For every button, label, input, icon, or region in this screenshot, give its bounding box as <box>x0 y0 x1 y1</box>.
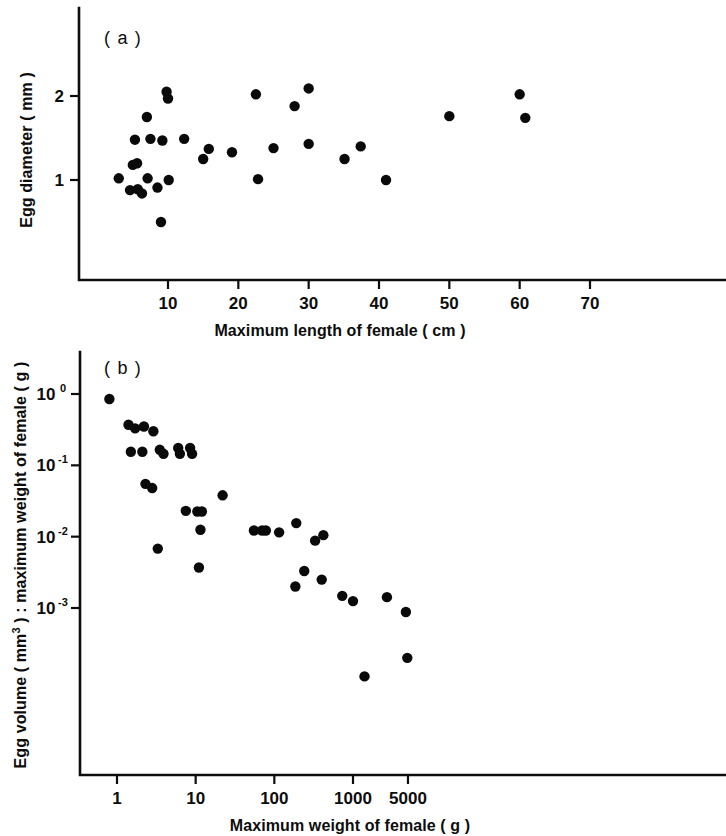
panel-a-x-axis-title: Maximum length of female ( cm ) <box>214 322 465 339</box>
data-point <box>289 101 299 111</box>
data-point <box>130 423 140 433</box>
data-point <box>114 173 124 183</box>
x-tick-label: 10 <box>159 294 178 313</box>
data-point <box>153 543 163 553</box>
panel-b: ( b )10010-110-210-311010010005000Maximu… <box>10 352 726 834</box>
x-tick-label: 1000 <box>334 789 372 808</box>
y-tick-label-exponent: 0 <box>60 382 66 394</box>
data-point <box>291 518 301 528</box>
data-point <box>318 530 328 540</box>
panel-b-x-axis-title: Maximum weight of female ( g ) <box>230 817 470 834</box>
y-tick-label-exponent: -1 <box>58 453 68 465</box>
y-tick-label-exponent: -2 <box>58 525 68 537</box>
panel-b-points <box>104 394 412 682</box>
x-tick-label: 1 <box>112 789 121 808</box>
data-point <box>181 506 191 516</box>
x-tick-label: 40 <box>370 294 389 313</box>
data-point <box>356 141 366 151</box>
data-point <box>299 566 309 576</box>
figure-canvas: ( a )1210203040506070Maximum length of f… <box>0 0 726 836</box>
data-point <box>227 147 237 157</box>
x-tick-label: 30 <box>299 294 318 313</box>
data-point <box>303 139 313 149</box>
data-point <box>194 562 204 572</box>
data-point <box>253 174 263 184</box>
data-point <box>139 421 149 431</box>
y-tick-label: 10 <box>37 599 56 618</box>
y-tick-label: 1 <box>55 171 64 190</box>
data-point <box>217 490 227 500</box>
data-point <box>303 83 313 93</box>
data-point <box>290 581 300 591</box>
panel-a-axes <box>79 8 726 280</box>
data-point <box>156 217 166 227</box>
y-tick-label-exponent: -3 <box>58 596 68 608</box>
data-point <box>126 447 136 457</box>
panel-b-y-axis-title: Egg volume ( mm3 ) : maximum weight of f… <box>10 362 29 769</box>
panel-a-y-ticks: 12 <box>55 87 79 190</box>
y-tick-label: 10 <box>37 528 56 547</box>
data-point <box>145 134 155 144</box>
data-point <box>104 394 114 404</box>
data-point <box>179 134 189 144</box>
data-point <box>514 89 524 99</box>
panel-b-label: ( b ) <box>104 358 142 378</box>
data-point <box>268 143 278 153</box>
x-tick-label: 60 <box>510 294 529 313</box>
panel-b-axes <box>80 352 726 775</box>
data-point <box>204 144 214 154</box>
data-point <box>137 447 147 457</box>
data-point <box>359 671 369 681</box>
data-point <box>175 449 185 459</box>
data-point <box>130 134 140 144</box>
data-point <box>195 525 205 535</box>
data-point <box>197 506 207 516</box>
data-point <box>251 89 261 99</box>
data-point <box>142 173 152 183</box>
y-tick-label: 10 <box>37 456 56 475</box>
y-tick-label: 10 <box>37 385 56 404</box>
data-point <box>164 175 174 185</box>
data-point <box>187 449 197 459</box>
data-point <box>444 111 454 121</box>
panel-a-y-axis-title: Egg diameter ( mm ) <box>18 72 35 228</box>
panel-a-x-ticks: 10203040506070 <box>159 280 600 313</box>
panel-b-y-axis-title-text: Egg volume ( mm3 ) : maximum weight of f… <box>10 362 29 769</box>
data-point <box>157 135 167 145</box>
data-point <box>402 653 412 663</box>
data-point <box>381 175 391 185</box>
x-tick-label: 20 <box>229 294 248 313</box>
x-tick-label: 50 <box>440 294 459 313</box>
panel-b-y-ticks: 10010-110-210-3 <box>37 382 80 618</box>
data-point <box>337 591 347 601</box>
scientific-figure: ( a )1210203040506070Maximum length of f… <box>0 0 726 836</box>
y-tick-label: 2 <box>55 87 64 106</box>
panel-a-points <box>114 83 531 227</box>
x-tick-label: 100 <box>260 789 288 808</box>
data-point <box>163 93 173 103</box>
x-tick-label: 70 <box>581 294 600 313</box>
panel-a: ( a )1210203040506070Maximum length of f… <box>18 8 726 339</box>
panel-a-label: ( a ) <box>104 28 142 48</box>
data-point <box>158 449 168 459</box>
data-point <box>382 592 392 602</box>
data-point <box>401 607 411 617</box>
x-tick-label: 10 <box>186 789 205 808</box>
data-point <box>261 525 271 535</box>
data-point <box>198 154 208 164</box>
data-point <box>274 527 284 537</box>
panel-b-x-ticks: 11010010005000 <box>112 775 427 808</box>
data-point <box>142 112 152 122</box>
data-point <box>317 574 327 584</box>
data-point <box>348 596 358 606</box>
data-point <box>137 188 147 198</box>
data-point <box>152 182 162 192</box>
data-point <box>147 483 157 493</box>
data-point <box>339 154 349 164</box>
x-tick-label: 5000 <box>389 789 427 808</box>
data-point <box>148 426 158 436</box>
data-point <box>132 158 142 168</box>
data-point <box>520 113 530 123</box>
